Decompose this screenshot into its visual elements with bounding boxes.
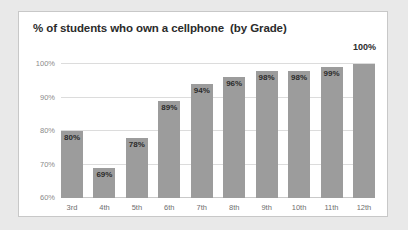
x-axis-tick-label: 11th xyxy=(315,203,349,212)
bar[interactable]: 98% xyxy=(288,71,310,198)
bar-slot: 96%8th xyxy=(223,64,245,198)
bar-value-label: 78% xyxy=(126,140,148,149)
bar-slot: 89%6th xyxy=(158,64,180,198)
bar-value-label: 98% xyxy=(256,73,278,82)
bar[interactable]: 99% xyxy=(321,67,343,198)
bar[interactable]: 78% xyxy=(126,138,148,198)
y-axis-tick-label: 100% xyxy=(36,59,55,68)
y-axis-tick-label: 70% xyxy=(40,159,55,168)
bar-slot: 80%3rd xyxy=(61,64,83,198)
bar[interactable]: 69% xyxy=(93,168,115,198)
x-axis-tick-label: 3rd xyxy=(55,203,89,212)
x-axis-tick-label: 7th xyxy=(185,203,219,212)
bar[interactable]: 98% xyxy=(256,71,278,198)
y-axis-tick-label: 60% xyxy=(40,193,55,202)
x-axis-tick-label: 5th xyxy=(120,203,154,212)
bar-slot: 94%7th xyxy=(191,64,213,198)
x-axis-tick-label: 10th xyxy=(282,203,316,212)
bar-slot: 100%12th xyxy=(353,64,375,198)
bar[interactable]: 96% xyxy=(223,77,245,198)
bar-value-label: 89% xyxy=(158,103,180,112)
bar-slot: 69%4th xyxy=(93,64,115,198)
x-axis-tick-label: 6th xyxy=(152,203,186,212)
bar-value-label: 69% xyxy=(93,170,115,179)
bar[interactable]: 80% xyxy=(61,131,83,198)
y-axis-tick-label: 90% xyxy=(40,92,55,101)
plot-area: 60%70%80%90%100% 80%3rd69%4th78%5th89%6t… xyxy=(61,64,375,198)
chart-title: % of students who own a cellphone (by Gr… xyxy=(33,22,287,34)
bar-slot: 98%10th xyxy=(288,64,310,198)
bar-value-label: 94% xyxy=(191,86,213,95)
bar-value-label: 80% xyxy=(61,133,83,142)
x-axis-tick-label: 8th xyxy=(217,203,251,212)
x-axis-tick-label: 9th xyxy=(250,203,284,212)
bar-series: 80%3rd69%4th78%5th89%6th94%7th96%8th98%9… xyxy=(61,64,375,198)
bar-value-label: 100% xyxy=(353,42,375,52)
bar[interactable]: 100% xyxy=(353,64,375,198)
chart-card: % of students who own a cellphone (by Gr… xyxy=(18,11,388,217)
bar-value-label: 96% xyxy=(223,79,245,88)
bar-slot: 99%11th xyxy=(321,64,343,198)
bar-value-label: 98% xyxy=(288,73,310,82)
y-axis-tick-label: 80% xyxy=(40,126,55,135)
bar-slot: 78%5th xyxy=(126,64,148,198)
bar[interactable]: 94% xyxy=(191,84,213,198)
x-axis-tick-label: 4th xyxy=(87,203,121,212)
x-axis-tick-label: 12th xyxy=(347,203,381,212)
bar[interactable]: 89% xyxy=(158,101,180,198)
bar-value-label: 99% xyxy=(321,69,343,78)
bar-slot: 98%9th xyxy=(256,64,278,198)
